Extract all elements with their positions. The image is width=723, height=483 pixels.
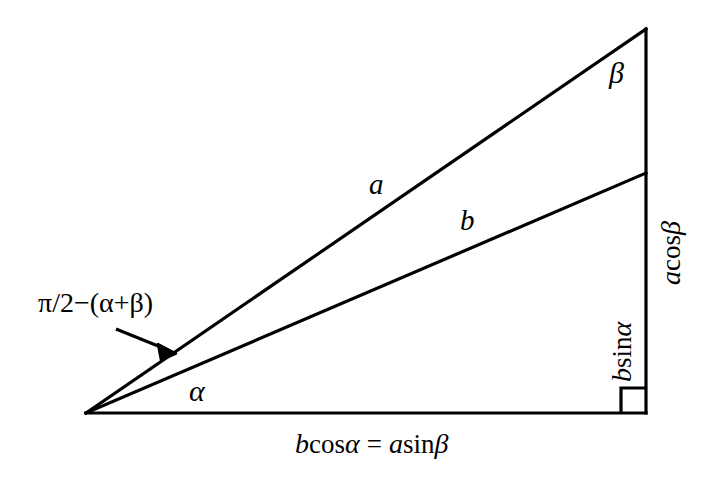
base-eq-rhs-fn: sin — [403, 429, 435, 459]
angle-beta-label: β — [609, 58, 624, 88]
base-eq-lhs-fn: cos — [309, 429, 345, 459]
vertical-upper-fn: cos — [656, 235, 686, 271]
base-equation-label: bcosα=asinβ — [295, 430, 448, 458]
vertical-upper-var2: β — [655, 221, 686, 235]
base-eq-rhs-var: a — [389, 428, 403, 459]
side-b-label: b — [460, 206, 475, 235]
vertical-upper-var1: a — [655, 271, 686, 285]
angle-alpha-label: α — [189, 376, 205, 406]
base-eq-rhs-arg: β — [434, 428, 448, 459]
vertical-lower-label: bsinα — [608, 322, 636, 382]
complement-angle-annotation: π/2−(α+β) — [38, 289, 153, 317]
right-angle-marker — [621, 388, 646, 413]
vertical-lower-var1: b — [606, 368, 637, 382]
side-b-line — [86, 173, 646, 413]
base-eq-equals: = — [360, 429, 389, 459]
side-a-label: a — [369, 170, 384, 199]
base-eq-lhs-arg: α — [345, 428, 360, 459]
annotation-arrow — [116, 329, 176, 360]
base-eq-lhs-var: b — [295, 428, 309, 459]
vertical-lower-fn: sin — [607, 336, 637, 368]
vertical-lower-var2: α — [606, 322, 637, 337]
diagram-canvas: a b β α π/2−(α+β) acosβ bsinα bcosα=asin… — [0, 0, 723, 483]
vertical-upper-label: acosβ — [657, 221, 685, 285]
